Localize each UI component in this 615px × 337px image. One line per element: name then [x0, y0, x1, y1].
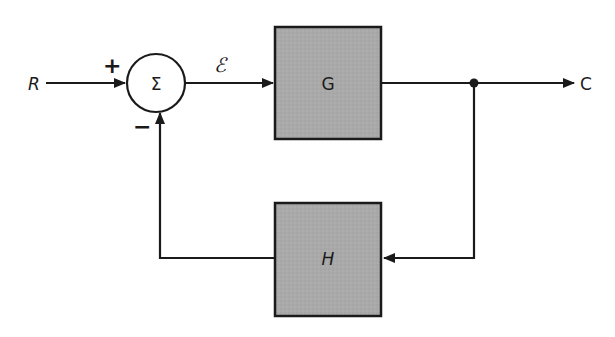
summing-junction: Σ — [127, 54, 185, 112]
feedback-block-label: H — [322, 249, 335, 269]
feedback-block-h: H — [275, 203, 381, 316]
feedback-path-to-junction — [160, 113, 275, 258]
plus-sign: + — [103, 53, 121, 78]
sigma-symbol: Σ — [151, 74, 162, 94]
feedback-path-to-h — [384, 83, 474, 258]
forward-block-g: G — [275, 27, 381, 139]
error-signal-label: ℰ — [214, 53, 228, 77]
input-label-r: R — [28, 74, 40, 94]
minus-sign: − — [133, 114, 151, 139]
forward-block-label: G — [321, 74, 334, 94]
output-label-c: C — [580, 74, 592, 94]
block-diagram: R + Σ − ℰ G C H — [0, 0, 615, 337]
